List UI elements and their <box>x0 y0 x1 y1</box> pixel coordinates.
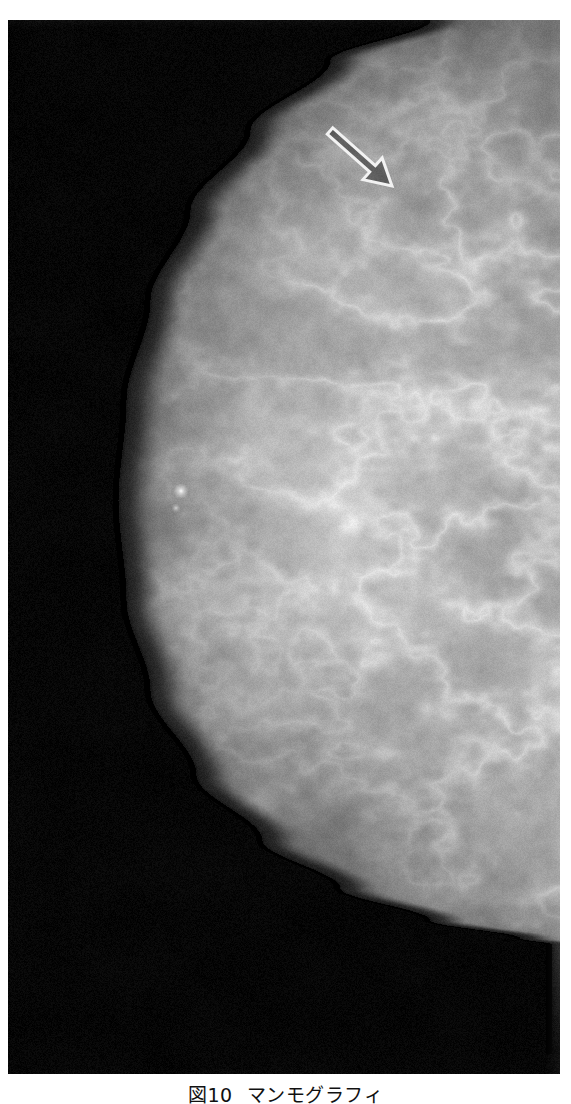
figure-title: マンモグラフィ <box>247 1084 384 1104</box>
mammogram-image <box>8 20 560 1074</box>
figure-plate <box>8 20 560 1074</box>
figure-number: 図10 <box>188 1084 233 1104</box>
figure-caption: 図10マンモグラフィ <box>0 1080 571 1104</box>
scanned-page: 図10マンモグラフィ <box>0 0 571 1104</box>
